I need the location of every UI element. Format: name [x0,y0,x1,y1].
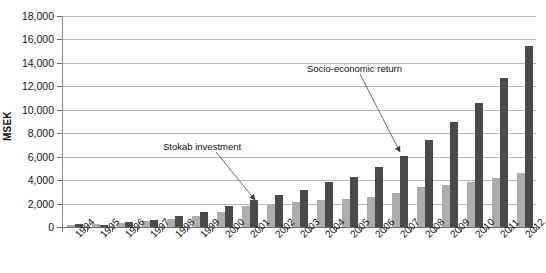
y-tick-label: 14,000 [22,57,54,69]
bar-stokab-investment [517,173,525,227]
y-tick-label: 18,000 [22,10,54,22]
y-axis-tick-labels: 02,0004,0006,0008,00010,00012,00014,0001… [0,0,62,273]
annotation-socio-economic-return: Socio-economic return [307,63,402,74]
bar-groups [63,16,536,227]
x-axis-tick-labels: 1994199519961997199819992000200120022003… [62,232,536,273]
bar-socio-economic-return [375,167,383,227]
bar-group [412,140,437,227]
bar-socio-economic-return [475,103,483,227]
y-tick-label: 8,000 [28,127,54,139]
y-tick-label: 2,000 [28,198,54,210]
plot-area [62,16,536,227]
bar-socio-economic-return [325,182,333,227]
bar-group [387,156,412,228]
bar-socio-economic-return [425,140,433,227]
y-tick-label: 16,000 [22,33,54,45]
bar-group [462,103,487,227]
bar-socio-economic-return [450,122,458,228]
bar-socio-economic-return [400,156,408,228]
y-tick-label: 0 [48,221,54,233]
bar-socio-economic-return [350,177,358,227]
bar-group [512,46,537,227]
y-tick-label: 4,000 [28,174,54,186]
y-tick-label: 10,000 [22,104,54,116]
annotation-stokab-investment: Stokab investment [163,141,241,152]
y-tick-label: 12,000 [22,80,54,92]
y-tick-label: 6,000 [28,151,54,163]
bar-group [487,78,512,227]
bar-socio-economic-return [525,46,533,227]
bar-socio-economic-return [500,78,508,227]
bar-group [437,122,462,228]
